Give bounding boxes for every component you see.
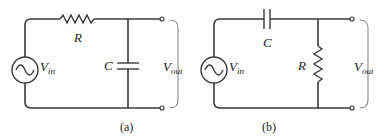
caption-a: (a) <box>120 120 133 134</box>
output-brace-a <box>170 20 178 108</box>
wire-b-top-left <box>214 19 264 57</box>
circuit-figure: R C Vin Vout (a) C R Vin Vout (b) <box>0 0 386 140</box>
terminal-b-top <box>350 17 354 21</box>
capacitor-b-series-icon <box>264 9 270 29</box>
label-b-r: R <box>297 58 306 73</box>
label-b-vin: Vin <box>229 59 244 76</box>
label-a-vin: Vin <box>40 59 55 76</box>
terminal-a-top <box>160 17 164 21</box>
capacitor-a-shunt-icon <box>117 63 139 69</box>
wire-a-bottom <box>25 83 160 108</box>
wire-b-bottom <box>214 83 350 108</box>
label-b-c: C <box>263 35 272 50</box>
label-b-vout: Vout <box>354 59 374 76</box>
circuit-a: R C Vin Vout (a) <box>12 15 183 134</box>
label-a-c: C <box>104 58 113 73</box>
ac-source-a-icon <box>12 57 38 83</box>
circuit-b: C R Vin Vout (b) <box>201 9 374 134</box>
resistor-b-shunt-icon <box>314 46 322 82</box>
ac-source-b-icon <box>201 57 227 83</box>
label-a-r: R <box>73 30 82 45</box>
wire-a-top-left <box>25 19 60 57</box>
terminal-a-bottom <box>160 106 164 110</box>
resistor-a-series-icon <box>60 15 94 23</box>
label-a-vout: Vout <box>163 59 183 76</box>
terminal-b-bottom <box>350 106 354 110</box>
caption-b: (b) <box>262 120 276 134</box>
